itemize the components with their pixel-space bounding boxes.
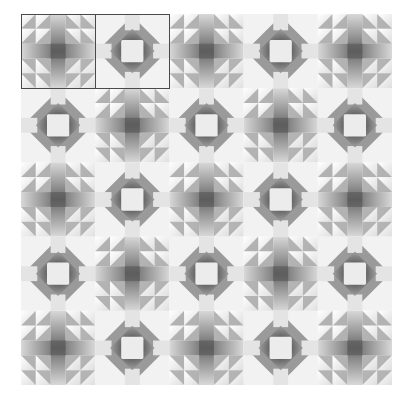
ring-block	[95, 162, 169, 236]
cross-block	[318, 14, 392, 88]
ring-block	[244, 162, 318, 236]
ring-center	[344, 114, 366, 136]
cross-block	[21, 311, 95, 385]
ring-block	[169, 237, 243, 311]
ring-block	[318, 88, 392, 162]
cross-block	[244, 237, 318, 311]
ring-center	[195, 114, 217, 136]
cross-block	[169, 14, 243, 88]
cross-block	[318, 162, 392, 236]
ring-center	[121, 40, 143, 62]
ring-block	[244, 311, 318, 385]
cross-block	[318, 311, 392, 385]
cross-block	[244, 88, 318, 162]
ring-block	[244, 14, 318, 88]
quilt-svg	[21, 14, 392, 385]
ring-center	[344, 263, 366, 285]
ring-block	[95, 14, 169, 88]
ring-center	[47, 263, 69, 285]
cross-block	[169, 162, 243, 236]
ring-center	[47, 114, 69, 136]
cross-block	[21, 162, 95, 236]
ring-center	[195, 263, 217, 285]
ring-center	[270, 40, 292, 62]
ring-center	[270, 337, 292, 359]
cross-block	[21, 14, 95, 88]
ring-block	[21, 88, 95, 162]
ring-block	[95, 311, 169, 385]
cross-block	[169, 311, 243, 385]
ring-center	[121, 337, 143, 359]
ring-block	[169, 88, 243, 162]
ring-block	[318, 237, 392, 311]
ring-block	[21, 237, 95, 311]
cross-block	[95, 237, 169, 311]
quilt-grid	[21, 14, 392, 385]
ring-center	[270, 188, 292, 210]
ring-center	[121, 188, 143, 210]
cross-block	[95, 88, 169, 162]
